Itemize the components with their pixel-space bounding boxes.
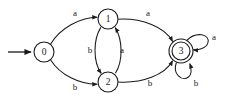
edge-0-to-2	[51, 60, 98, 85]
edge-label-2-to-3: b	[148, 78, 153, 88]
edge-0-to-1	[51, 17, 98, 44]
state-node-2[interactable]: 2	[98, 72, 118, 92]
state-label-2: 2	[106, 77, 111, 87]
state-diagram: a b b a a b a b 0 1	[0, 0, 229, 101]
edge-1-to-3	[118, 19, 172, 41]
state-node-3-accepting[interactable]: 3	[169, 39, 193, 63]
edge-label-0-to-1: a	[73, 8, 77, 18]
state-label-3: 3	[179, 46, 184, 56]
states: 0 1 2 3	[34, 9, 193, 92]
edge-label-1-to-3: a	[146, 8, 150, 18]
edge-label-1-to-2: b	[88, 45, 93, 55]
edge-label-0-to-2: b	[73, 82, 78, 92]
edge-1-to-2	[95, 27, 101, 73]
edge-label-2-to-1: a	[120, 45, 124, 55]
state-label-0: 0	[42, 47, 47, 57]
edge-label-3-self-a: a	[212, 32, 216, 42]
state-label-1: 1	[106, 14, 111, 24]
edge-2-to-3	[118, 61, 172, 82]
state-node-1[interactable]: 1	[98, 9, 118, 29]
state-node-0[interactable]: 0	[34, 42, 54, 62]
edge-3-self-loop-b	[175, 62, 191, 78]
edge-label-3-self-b: b	[194, 78, 199, 88]
